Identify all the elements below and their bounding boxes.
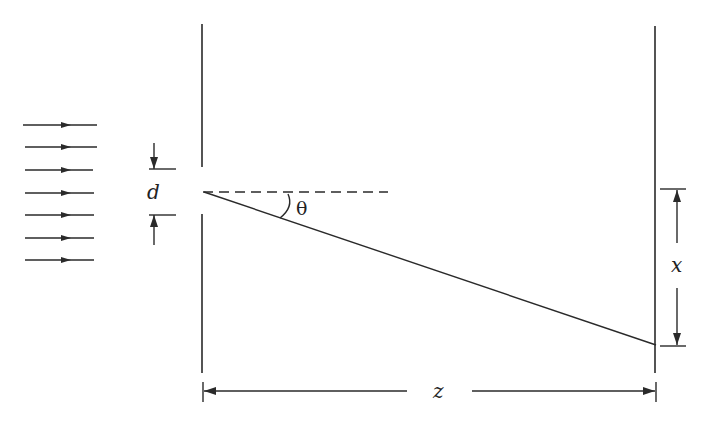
diffracted-ray bbox=[204, 192, 656, 345]
label-d: d bbox=[147, 180, 160, 204]
diagram-svg: d θ x z bbox=[0, 0, 708, 431]
label-z: z bbox=[432, 379, 444, 403]
label-x: x bbox=[671, 253, 682, 277]
label-theta: θ bbox=[296, 197, 307, 219]
incident-wave-arrows bbox=[23, 125, 97, 260]
diffraction-diagram: d θ x z bbox=[0, 0, 708, 431]
angle-arc bbox=[280, 194, 290, 218]
distance-dimension bbox=[203, 382, 656, 402]
